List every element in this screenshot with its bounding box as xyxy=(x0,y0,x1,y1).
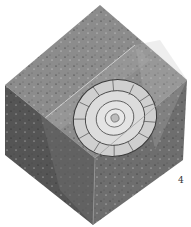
plate-number: 4 xyxy=(178,175,184,185)
fossil-cube-illustration xyxy=(0,0,191,227)
